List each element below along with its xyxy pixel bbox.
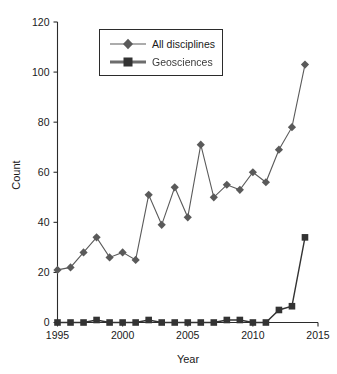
y-tick-label: 0: [44, 316, 50, 328]
chart-figure: 020406080100120 19952000200520102015 Cou…: [0, 0, 337, 374]
legend-box: [100, 30, 223, 76]
x-axis-title: Year: [177, 353, 200, 365]
data-point-marker: [237, 317, 244, 324]
data-point-marker: [106, 319, 113, 326]
x-tick-label: 2015: [306, 329, 330, 341]
data-point-marker: [67, 319, 74, 326]
data-point-marker: [263, 319, 270, 326]
data-point-marker: [158, 319, 165, 326]
data-point-marker: [184, 319, 191, 326]
data-point-marker: [93, 317, 100, 324]
y-tick-label: 40: [38, 216, 50, 228]
legend: All disciplines Geosciences: [100, 30, 223, 76]
data-point-marker: [119, 319, 126, 326]
x-tick-label: 2010: [241, 329, 265, 341]
data-point-marker: [54, 319, 61, 326]
data-point-marker: [224, 317, 231, 324]
data-point-marker: [250, 319, 257, 326]
data-point-marker: [302, 234, 309, 241]
square-icon: [124, 58, 133, 67]
y-tick-label: 20: [38, 266, 50, 278]
data-point-marker: [276, 307, 283, 314]
data-point-marker: [145, 317, 152, 324]
data-point-marker: [80, 319, 87, 326]
y-tick-label: 60: [38, 166, 50, 178]
data-point-marker: [197, 319, 204, 326]
data-point-marker: [132, 319, 139, 326]
legend-label-geosciences: Geosciences: [152, 56, 213, 68]
data-point-marker: [289, 303, 296, 310]
y-tick-label: 100: [32, 66, 50, 78]
data-point-marker: [171, 319, 178, 326]
y-tick-label: 80: [38, 116, 50, 128]
line-chart: 020406080100120 19952000200520102015 Cou…: [0, 0, 337, 374]
data-point-marker: [211, 319, 218, 326]
x-tick-label: 2000: [111, 329, 135, 341]
y-tick-label: 120: [32, 16, 50, 28]
y-axis-title: Count: [10, 160, 22, 189]
legend-label-all-disciplines: All disciplines: [152, 38, 215, 50]
x-tick-label: 2005: [176, 329, 200, 341]
x-tick-label: 1995: [46, 329, 70, 341]
